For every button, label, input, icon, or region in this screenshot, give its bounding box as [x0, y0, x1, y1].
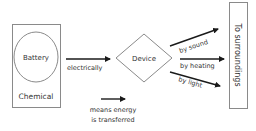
electrical-transfer: electrically [66, 59, 110, 72]
by-light-label: by light [177, 75, 203, 90]
device-label: Device [132, 55, 156, 63]
surroundings-store: To surroundings [230, 3, 248, 109]
chemical-store-label: Chemical [19, 92, 54, 101]
to-surroundings-label: To surroundings [233, 22, 242, 86]
legend: means energy is transferred [90, 99, 137, 124]
by-heating-label: by heating [180, 62, 215, 70]
output-light: by light [170, 72, 220, 90]
battery-label: Battery [23, 54, 49, 62]
legend-line-1: means energy [90, 106, 137, 114]
legend-line-2: is transferred [91, 116, 134, 124]
energy-transfer-diagram: Battery Chemical electrically Device by … [0, 0, 256, 131]
device-node: Device [116, 34, 172, 82]
battery-store: Battery Chemical [13, 25, 61, 108]
output-sound: by sound [170, 29, 218, 55]
by-sound-label: by sound [178, 38, 209, 55]
electrically-label: electrically [67, 64, 103, 72]
output-heating: by heating [180, 59, 224, 70]
